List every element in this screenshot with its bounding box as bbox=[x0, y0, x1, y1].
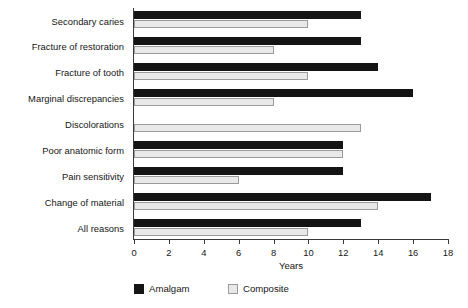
x-tick-label: 14 bbox=[373, 247, 383, 258]
category-label: Marginal discrepancies bbox=[28, 94, 124, 104]
bar-composite bbox=[134, 202, 378, 210]
category-axis-labels: Secondary caries Fracture of restoration… bbox=[0, 8, 128, 238]
light-square-icon bbox=[228, 284, 238, 294]
bar-amalgam bbox=[134, 193, 431, 201]
category-label: Discolorations bbox=[65, 120, 124, 130]
x-tick-label: 0 bbox=[131, 247, 136, 258]
legend-label: Composite bbox=[243, 283, 289, 294]
bar-composite bbox=[134, 176, 239, 184]
bar-amalgam bbox=[134, 219, 361, 227]
bar-composite bbox=[134, 98, 274, 106]
bar-chart: Secondary caries Fracture of restoration… bbox=[0, 0, 468, 308]
x-tick bbox=[169, 239, 170, 244]
x-tick-label: 12 bbox=[338, 247, 348, 258]
bar-amalgam bbox=[134, 11, 361, 19]
x-tick bbox=[204, 239, 205, 244]
x-tick-label: 8 bbox=[271, 247, 276, 258]
bar-composite bbox=[134, 20, 308, 28]
x-tick bbox=[274, 239, 275, 244]
bar-amalgam bbox=[134, 89, 413, 97]
bar-amalgam bbox=[134, 141, 343, 149]
category-label: Fracture of restoration bbox=[32, 42, 124, 52]
x-tick bbox=[239, 239, 240, 244]
bar-amalgam bbox=[134, 63, 378, 71]
legend-item-composite: Composite bbox=[228, 283, 289, 294]
category-label: Pain sensitivity bbox=[62, 172, 124, 182]
x-axis-title: Years bbox=[134, 260, 448, 271]
x-tick bbox=[448, 239, 449, 244]
legend-item-amalgam: Amalgam bbox=[134, 283, 190, 294]
bar-amalgam bbox=[134, 167, 343, 175]
bar-composite bbox=[134, 228, 308, 236]
category-label: Poor anatomic form bbox=[42, 146, 124, 156]
category-label: Secondary caries bbox=[52, 17, 124, 27]
x-tick bbox=[413, 239, 414, 244]
bar-composite bbox=[134, 72, 308, 80]
x-tick bbox=[343, 239, 344, 244]
bar-composite bbox=[134, 124, 361, 132]
category-label: All reasons bbox=[78, 224, 124, 234]
x-tick bbox=[134, 239, 135, 244]
plot-area: 024681012141618 Years bbox=[134, 8, 448, 238]
chart-legend: Amalgam Composite bbox=[134, 283, 448, 299]
bar-composite bbox=[134, 150, 343, 158]
bar-composite bbox=[134, 46, 274, 54]
black-square-icon bbox=[134, 284, 144, 294]
x-tick-label: 2 bbox=[166, 247, 171, 258]
x-axis-line bbox=[133, 239, 448, 240]
x-tick-label: 4 bbox=[201, 247, 206, 258]
legend-label: Amalgam bbox=[149, 283, 190, 294]
x-tick bbox=[308, 239, 309, 244]
x-tick-label: 6 bbox=[236, 247, 241, 258]
x-tick-label: 16 bbox=[408, 247, 418, 258]
bar-amalgam bbox=[134, 37, 361, 45]
x-tick bbox=[378, 239, 379, 244]
category-label: Fracture of tooth bbox=[55, 68, 124, 78]
x-tick-label: 10 bbox=[303, 247, 313, 258]
x-tick-label: 18 bbox=[443, 247, 453, 258]
category-label: Change of material bbox=[45, 198, 124, 208]
